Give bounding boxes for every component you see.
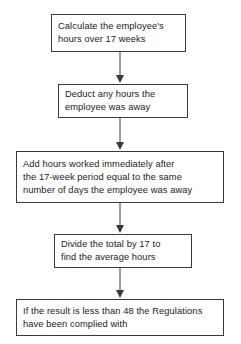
arrow-down-icon: [113, 268, 127, 299]
process-box-step-2-label: Deduct any hours the employee was away: [65, 88, 181, 114]
arrow-down-icon: [113, 118, 127, 151]
flowchart-canvas: Calculate the employee's hours over 17 w…: [0, 0, 241, 344]
connector-step-2-to-step-3: [113, 118, 127, 151]
process-box-step-3: Add hours worked immediately after the 1…: [16, 151, 224, 203]
process-box-step-1: Calculate the employee's hours over 17 w…: [51, 14, 186, 52]
process-box-step-2: Deduct any hours the employee was away: [58, 84, 188, 118]
arrow-down-icon: [113, 52, 127, 84]
process-box-step-5-label: If the result is less than 48 the Regula…: [23, 305, 217, 331]
process-box-step-5: If the result is less than 48 the Regula…: [16, 299, 224, 336]
connector-step-3-to-step-4: [113, 203, 127, 234]
arrow-down-icon: [113, 203, 127, 234]
process-box-step-4: Divide the total by 17 to find the avera…: [54, 234, 192, 268]
connector-step-1-to-step-2: [113, 52, 127, 84]
process-box-step-3-label: Add hours worked immediately after the 1…: [23, 158, 217, 197]
process-box-step-4-label: Divide the total by 17 to find the avera…: [61, 238, 185, 264]
connector-step-4-to-step-5: [113, 268, 127, 299]
process-box-step-1-label: Calculate the employee's hours over 17 w…: [58, 20, 179, 46]
